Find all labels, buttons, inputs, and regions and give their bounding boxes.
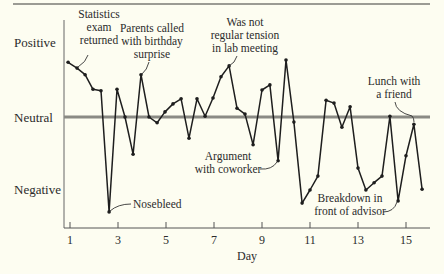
- data-point: [308, 188, 312, 192]
- annotation-nosebleed: Nosebleed: [133, 198, 182, 210]
- tick-label: 9: [259, 233, 265, 247]
- data-point: [380, 174, 384, 178]
- svg-text:regular tension: regular tension: [211, 29, 280, 42]
- data-point: [372, 181, 376, 185]
- data-point: [316, 174, 320, 178]
- svg-text:surprise: surprise: [134, 48, 170, 61]
- mood-chart: Positive Neutral Negative 1 3 5 7 9 11 1…: [0, 0, 444, 274]
- annotation-arrow: [78, 55, 88, 67]
- tick-label: 3: [115, 233, 121, 247]
- x-ticks: [70, 222, 406, 228]
- svg-text:Parents called: Parents called: [120, 22, 184, 34]
- data-point: [243, 112, 247, 116]
- data-point: [99, 89, 103, 93]
- svg-text:Argument: Argument: [205, 150, 252, 163]
- annotation-breakdown: Breakdown in front of advisor: [314, 192, 386, 217]
- annotation-argument: Argument with coworker: [195, 150, 262, 175]
- svg-text:a friend: a friend: [376, 88, 412, 100]
- data-point: [203, 115, 207, 119]
- svg-text:returned: returned: [80, 34, 119, 46]
- data-point: [155, 121, 159, 125]
- data-point: [324, 98, 328, 102]
- data-point: [300, 201, 304, 205]
- data-point: [348, 105, 352, 109]
- data-point: [340, 125, 344, 129]
- x-tick-labels: 1 3 5 7 9 11 13 15: [67, 233, 412, 247]
- y-label-positive: Positive: [14, 35, 56, 50]
- svg-text:front of advisor: front of advisor: [314, 205, 386, 217]
- data-point: [179, 97, 183, 101]
- data-point: [251, 143, 255, 147]
- data-point: [404, 154, 408, 158]
- data-point: [412, 123, 416, 127]
- data-point: [292, 120, 296, 124]
- data-point: [123, 115, 127, 119]
- data-point: [187, 136, 191, 140]
- tick-label: 11: [304, 233, 316, 247]
- annotation-lunch: Lunch with a friend: [368, 75, 421, 100]
- x-axis-label: Day: [237, 249, 257, 263]
- data-point: [83, 73, 87, 77]
- svg-text:with birthday: with birthday: [121, 35, 183, 48]
- svg-text:in lab meeting: in lab meeting: [212, 42, 278, 55]
- data-point: [131, 152, 135, 156]
- data-point: [219, 75, 223, 79]
- svg-text:Statistics: Statistics: [78, 8, 120, 20]
- annotation-lab-tension: Was not regular tension in lab meeting: [211, 16, 280, 55]
- data-point: [260, 88, 264, 92]
- annotation-arrow: [395, 102, 414, 122]
- svg-text:exam: exam: [87, 21, 112, 33]
- tick-label: 15: [400, 233, 412, 247]
- tick-label: 7: [211, 233, 217, 247]
- data-point: [163, 110, 167, 114]
- svg-text:Was not: Was not: [226, 16, 264, 28]
- data-point: [356, 166, 360, 170]
- data-point: [66, 61, 70, 65]
- data-point: [195, 97, 199, 101]
- y-label-neutral: Neutral: [14, 110, 53, 125]
- y-label-negative: Negative: [14, 182, 61, 197]
- tick-label: 5: [163, 233, 169, 247]
- data-point: [420, 188, 424, 192]
- annotation-parents-called: Parents called with birthday surprise: [120, 22, 184, 61]
- data-point: [115, 88, 119, 92]
- data-point: [147, 115, 151, 119]
- data-point: [284, 58, 288, 62]
- data-point: [268, 83, 272, 87]
- data-point: [211, 96, 215, 100]
- annotation-arrow: [142, 62, 149, 74]
- data-point: [332, 101, 336, 105]
- data-point: [91, 88, 95, 92]
- svg-text:with coworker: with coworker: [195, 163, 262, 175]
- svg-text:Lunch with: Lunch with: [368, 75, 421, 87]
- data-point: [171, 102, 175, 106]
- tick-label: 13: [352, 233, 364, 247]
- annotation-statistics-exam: Statistics exam returned: [78, 8, 120, 46]
- annotation-arrow: [110, 204, 131, 211]
- tick-label: 1: [67, 233, 73, 247]
- svg-text:Breakdown in: Breakdown in: [318, 192, 383, 204]
- annotation-arrow: [260, 162, 277, 169]
- data-point: [388, 115, 392, 119]
- data-point: [235, 106, 239, 110]
